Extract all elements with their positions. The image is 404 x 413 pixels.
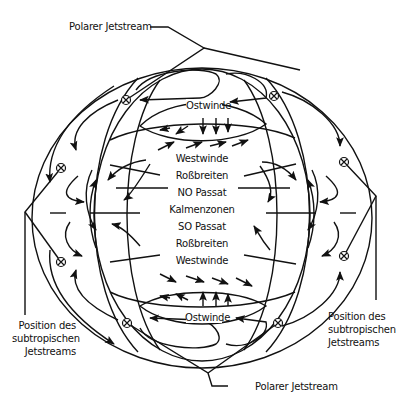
ostwinde-label-bottom: Ostwinde — [185, 311, 230, 324]
subtropical-jetstream-label-right: Position des subtropischen Jetstreams — [328, 310, 396, 349]
climate-zone-labels: Westwinde Roßbreiten NO Passat Kalmenzon… — [152, 150, 252, 269]
zone-rossbreiten-south: Roßbreiten — [152, 235, 252, 252]
zone-rossbreiten-north: Roßbreiten — [152, 167, 252, 184]
jetstream-icon — [122, 96, 131, 105]
subtropical-jetstream-label-left: Position des subtropischen Jetstreams — [12, 319, 76, 358]
label-line: Position des — [328, 310, 396, 323]
ostwinde-label-top: Ostwinde — [186, 99, 231, 112]
polar-jetstream-label-bottom: Polarer Jetstream — [255, 380, 338, 393]
jetstream-icon — [123, 319, 132, 328]
label-line: subtropischen — [12, 332, 76, 345]
jetstream-icon — [340, 252, 349, 261]
zone-westwinde-north: Westwinde — [152, 150, 252, 167]
jetstream-icon — [57, 164, 66, 173]
jetstream-icon — [274, 319, 283, 328]
zone-no-passat: NO Passat — [152, 184, 252, 201]
label-line: subtropischen — [328, 323, 396, 336]
zone-so-passat: SO Passat — [152, 218, 252, 235]
zone-westwinde-south: Westwinde — [152, 252, 252, 269]
polar-jetstream-label-top: Polarer Jetstream — [69, 20, 152, 33]
label-line: Jetstreams — [328, 336, 396, 349]
label-line: Jetstreams — [12, 345, 76, 358]
jetstream-icon — [57, 258, 66, 267]
zone-kalmenzonen: Kalmenzonen — [152, 201, 252, 218]
jetstream-icon — [340, 158, 349, 167]
label-line: Position des — [12, 319, 76, 332]
globe-right-meridian — [266, 78, 310, 352]
jetstream-icon — [270, 92, 279, 101]
